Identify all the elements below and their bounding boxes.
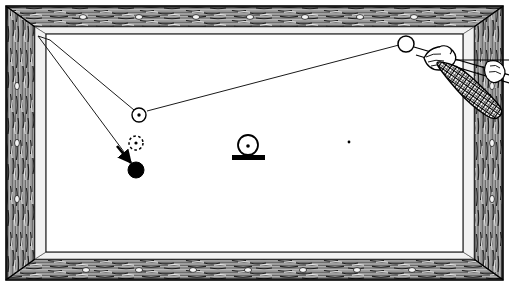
cushion-top [35, 27, 474, 34]
rail-left [7, 7, 35, 279]
table-spot-marker [348, 141, 351, 144]
object-ball-first [132, 108, 146, 122]
billiards-diagram-root: Pool table bank shot diagram cue ball fi… [0, 0, 509, 286]
cushion-left [35, 27, 46, 259]
billiards-diagram-canvas [0, 0, 509, 286]
cue-ball [398, 36, 414, 52]
rail-right [474, 7, 502, 279]
rail-bottom [7, 259, 502, 279]
target-ball-black [128, 162, 144, 178]
ball-rest-bar [232, 155, 265, 160]
cuff [485, 61, 506, 83]
cushion-bottom [35, 252, 474, 259]
